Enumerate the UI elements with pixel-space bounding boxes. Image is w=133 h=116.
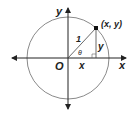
right-angle-marker [92,54,96,58]
origin-label: O [55,60,64,72]
vertical-leg-label: y [97,41,104,52]
point-label: (x, y) [101,19,122,29]
horizontal-leg-label: x [78,60,85,71]
radius-label: 1 [76,34,81,44]
angle-label: θ [78,49,82,56]
y-axis-label: y [55,5,63,17]
point-marker [94,26,98,30]
unit-circle-diagram: y x O (x, y) 1 θ x y [0,0,133,116]
radius-segment [68,28,96,58]
x-axis-label: x [118,59,126,71]
